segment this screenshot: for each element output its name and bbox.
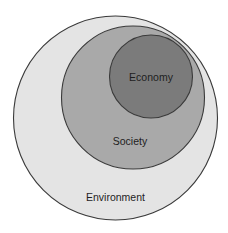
nested-circles-diagram: Environment Society Economy [0, 0, 228, 233]
society-label: Society [113, 135, 148, 147]
environment-label: Environment [86, 191, 145, 203]
economy-label: Economy [129, 71, 174, 83]
